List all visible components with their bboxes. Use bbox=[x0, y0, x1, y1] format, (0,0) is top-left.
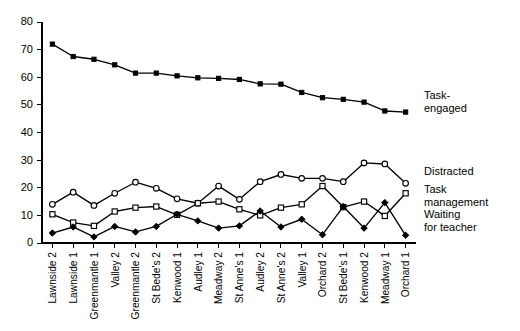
legend-label: Distracted bbox=[424, 165, 474, 177]
x-tick-label: St Bede's 1 bbox=[338, 252, 349, 304]
legend-label: management bbox=[424, 196, 488, 208]
x-tick-label: Valley 2 bbox=[110, 252, 121, 288]
data-point bbox=[153, 223, 159, 229]
data-point bbox=[50, 212, 55, 217]
legend-label: Task bbox=[424, 183, 447, 195]
x-tick-label: Kenwood 1 bbox=[172, 252, 183, 303]
y-axis: 01020304050607080 bbox=[21, 15, 42, 248]
x-tick-label: Greenmantle 2 bbox=[130, 252, 141, 320]
x-tick-label: Kenwood 2 bbox=[359, 252, 370, 303]
y-tick-label: 60 bbox=[21, 71, 33, 83]
data-point bbox=[112, 209, 117, 214]
data-point bbox=[153, 186, 159, 192]
series-layer bbox=[49, 42, 409, 240]
data-point bbox=[50, 42, 54, 46]
data-point bbox=[216, 183, 222, 189]
series-line bbox=[52, 44, 405, 112]
legend-label: engaged bbox=[424, 102, 467, 114]
legend-label: Waiting bbox=[424, 208, 460, 220]
series-line bbox=[52, 203, 405, 237]
data-point bbox=[195, 218, 201, 224]
data-point bbox=[278, 205, 283, 210]
data-point bbox=[237, 207, 242, 212]
data-point bbox=[113, 63, 117, 67]
y-tick-label: 80 bbox=[21, 15, 33, 27]
x-tick-label: Greenmantle 1 bbox=[89, 252, 100, 320]
series-task-management bbox=[50, 183, 408, 228]
legend-label: for teacher bbox=[424, 221, 477, 233]
data-point bbox=[362, 100, 366, 104]
data-point bbox=[299, 176, 305, 182]
data-point bbox=[402, 232, 408, 238]
x-tick-label: St Bede's 2 bbox=[151, 252, 162, 304]
data-point bbox=[237, 77, 241, 81]
x-tick-label: Orchard 2 bbox=[317, 252, 328, 298]
legend-label: Task- bbox=[424, 89, 451, 101]
data-point bbox=[320, 176, 326, 182]
data-point bbox=[404, 110, 408, 114]
data-point bbox=[91, 234, 97, 240]
data-point bbox=[133, 205, 138, 210]
x-tick-label: Valley 1 bbox=[297, 252, 308, 288]
data-point bbox=[133, 179, 139, 185]
data-point bbox=[299, 202, 304, 207]
data-point bbox=[91, 223, 96, 228]
data-point bbox=[195, 201, 200, 206]
x-tick-label: Orchard 1 bbox=[400, 252, 411, 298]
x-tick-label: Meadway 1 bbox=[380, 252, 391, 304]
chart-container: 01020304050607080 Lawnside 2Lawnside 1Gr… bbox=[0, 0, 520, 331]
legend-item-task-engaged: Task-engaged bbox=[424, 89, 467, 114]
line-chart-svg: 01020304050607080 Lawnside 2Lawnside 1Gr… bbox=[0, 0, 520, 331]
x-tick-label: Lawnside 1 bbox=[68, 252, 79, 304]
data-point bbox=[132, 229, 138, 235]
data-point bbox=[279, 82, 283, 86]
legend-item-task-management: Taskmanagement bbox=[424, 183, 488, 208]
data-point bbox=[300, 90, 304, 94]
data-point bbox=[49, 230, 55, 236]
y-tick-label: 10 bbox=[21, 209, 33, 221]
series-distracted bbox=[50, 160, 409, 208]
data-point bbox=[154, 204, 159, 209]
data-point bbox=[50, 202, 56, 208]
x-axis: Lawnside 2Lawnside 1Greenmantle 1Valley … bbox=[42, 243, 416, 319]
data-point bbox=[92, 57, 96, 61]
data-point bbox=[112, 190, 118, 196]
data-point bbox=[70, 189, 76, 195]
chart-legend: Task-engagedDistractedTaskmanagementWait… bbox=[424, 89, 488, 233]
legend-item-distracted: Distracted bbox=[424, 165, 474, 177]
data-point bbox=[361, 160, 367, 166]
data-point bbox=[340, 179, 346, 185]
y-tick-label: 0 bbox=[27, 236, 33, 248]
data-point bbox=[361, 199, 366, 204]
data-point bbox=[216, 199, 221, 204]
data-point bbox=[403, 181, 409, 187]
data-point bbox=[175, 74, 179, 78]
y-tick-label: 70 bbox=[21, 43, 33, 55]
data-point bbox=[383, 109, 387, 113]
data-point bbox=[341, 97, 345, 101]
series-line bbox=[52, 163, 405, 206]
x-tick-label: St Anne's 2 bbox=[276, 252, 287, 304]
data-point bbox=[320, 183, 325, 188]
data-point bbox=[174, 196, 180, 202]
y-tick-label: 20 bbox=[21, 181, 33, 193]
series-task-engaged bbox=[50, 42, 407, 114]
x-tick-label: Lawnside 2 bbox=[47, 252, 58, 304]
data-point bbox=[91, 203, 97, 209]
data-point bbox=[278, 172, 284, 178]
data-point bbox=[196, 76, 200, 80]
data-point bbox=[215, 225, 221, 231]
data-point bbox=[71, 54, 75, 58]
legend-item-waiting-for-teacher: Waitingfor teacher bbox=[424, 208, 477, 233]
y-tick-label: 40 bbox=[21, 126, 33, 138]
y-tick-label: 30 bbox=[21, 154, 33, 166]
data-point bbox=[403, 191, 408, 196]
data-point bbox=[382, 161, 388, 167]
x-tick-label: St Anne's 1 bbox=[234, 252, 245, 304]
data-point bbox=[112, 223, 118, 229]
data-point bbox=[154, 71, 158, 75]
x-tick-label: Audley 2 bbox=[255, 252, 266, 292]
data-point bbox=[320, 96, 324, 100]
data-point bbox=[382, 213, 387, 218]
x-tick-label: Meadway 2 bbox=[213, 252, 224, 304]
